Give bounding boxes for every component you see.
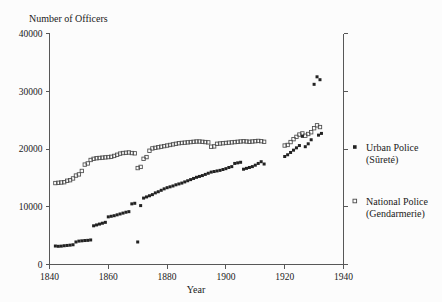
data-point-urban-police	[124, 211, 127, 214]
y-tick-label: 10000	[19, 202, 43, 212]
data-point-urban-police	[263, 163, 266, 166]
y-axis-title: Number of Officers	[29, 13, 108, 24]
data-point-urban-police	[239, 161, 242, 164]
data-point-urban-police	[72, 243, 75, 246]
data-point-urban-police	[133, 202, 136, 205]
data-point-urban-police	[83, 239, 86, 242]
data-point-urban-police	[301, 135, 304, 138]
x-tick-label: 1840	[40, 272, 59, 282]
data-point-urban-police	[224, 167, 227, 170]
data-point-urban-police	[198, 175, 201, 178]
chart-container: Number of Officers Year 0100002000030000…	[0, 0, 442, 302]
data-point-urban-police	[151, 193, 154, 196]
data-point-urban-police	[236, 161, 239, 164]
data-point-urban-police	[142, 197, 145, 200]
data-point-urban-police	[317, 134, 320, 137]
data-point-urban-police	[104, 221, 107, 224]
data-point-urban-police	[74, 240, 77, 243]
data-point-urban-police	[145, 195, 148, 198]
data-point-urban-police	[163, 187, 166, 190]
axis-titles: Number of Officers Year	[29, 13, 206, 295]
series-urban-police-points	[54, 75, 323, 247]
data-point-urban-police	[77, 240, 80, 243]
data-point-urban-police	[242, 168, 245, 171]
legend-marker-national-police	[353, 199, 357, 203]
data-point-urban-police	[63, 244, 66, 247]
data-point-urban-police	[101, 222, 104, 225]
data-point-urban-police	[169, 185, 172, 188]
data-point-urban-police	[160, 189, 163, 192]
data-point-urban-police	[171, 184, 174, 187]
data-point-urban-police	[139, 204, 142, 207]
x-tick-label: 1940	[334, 272, 353, 282]
data-point-urban-police	[195, 176, 198, 179]
data-point-urban-police	[130, 202, 133, 205]
data-point-urban-police	[148, 194, 151, 197]
legend-sublabel: (Sûreté)	[366, 154, 398, 166]
data-point-urban-police	[86, 239, 89, 242]
data-point-urban-police	[95, 223, 98, 226]
legend-sublabel: (Gendarmerie)	[366, 208, 425, 220]
data-point-urban-police	[186, 179, 189, 182]
data-point-urban-police	[113, 214, 116, 217]
y-tick-label: 40000	[19, 29, 43, 39]
data-point-urban-police	[157, 190, 160, 193]
data-point-urban-police	[318, 78, 321, 81]
data-point-urban-police	[221, 168, 224, 171]
data-point-urban-police	[107, 215, 110, 218]
data-point-urban-police	[307, 142, 310, 145]
x-tick-label: 1880	[158, 272, 177, 282]
data-point-urban-police	[292, 149, 295, 152]
y-tick-label: 20000	[19, 144, 43, 154]
y-tick-labels: 010000200003000040000	[19, 29, 43, 270]
data-point-urban-police	[154, 191, 157, 194]
data-point-urban-police	[66, 244, 69, 247]
data-point-urban-police	[189, 178, 192, 181]
data-point-urban-police	[227, 166, 230, 169]
data-point-urban-police	[192, 177, 195, 180]
data-point-urban-police	[136, 240, 139, 243]
data-point-urban-police	[119, 212, 122, 215]
axes	[50, 34, 344, 265]
data-point-national-police	[80, 169, 83, 172]
x-tick-label: 1900	[216, 272, 235, 282]
data-point-urban-police	[174, 183, 177, 186]
x-tick-label: 1860	[99, 272, 118, 282]
data-point-urban-police	[213, 170, 216, 173]
data-point-urban-police	[248, 166, 251, 169]
data-point-urban-police	[92, 224, 95, 227]
data-point-urban-police	[207, 172, 210, 175]
data-point-urban-police	[254, 164, 257, 167]
data-point-urban-police	[180, 182, 183, 185]
legend-label: Urban Police	[366, 142, 419, 153]
data-point-urban-police	[54, 245, 57, 248]
data-point-urban-police	[283, 155, 286, 158]
data-point-urban-police	[313, 83, 316, 86]
data-point-urban-police	[298, 144, 301, 147]
data-point-urban-police	[166, 186, 169, 189]
data-point-urban-police	[289, 151, 292, 154]
data-point-urban-police	[251, 165, 254, 168]
data-point-urban-police	[219, 169, 222, 172]
data-point-urban-police	[177, 182, 180, 185]
data-point-urban-police	[233, 162, 236, 165]
data-point-urban-police	[304, 145, 307, 148]
data-point-urban-police	[98, 223, 101, 226]
data-point-urban-police	[69, 244, 72, 247]
data-point-urban-police	[310, 138, 313, 141]
data-point-urban-police	[57, 245, 60, 248]
legend-marker-urban-police	[353, 145, 357, 149]
data-point-urban-police	[80, 239, 83, 242]
data-point-urban-police	[122, 212, 125, 215]
data-point-urban-police	[110, 215, 113, 218]
data-point-urban-police	[89, 238, 92, 241]
data-point-urban-police	[201, 174, 204, 177]
data-point-urban-police	[127, 210, 130, 213]
tick-marks	[46, 34, 348, 269]
scatter-plot: Number of Officers Year 0100002000030000…	[0, 0, 442, 302]
data-point-urban-police	[320, 132, 323, 135]
legend: Urban Police(Sûreté)National Police(Gend…	[353, 142, 428, 220]
x-tick-labels: 184018601880190019201940	[40, 272, 353, 282]
y-tick-label: 30000	[19, 87, 43, 97]
data-point-urban-police	[216, 169, 219, 172]
